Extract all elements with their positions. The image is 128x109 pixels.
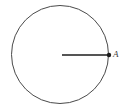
diagram-canvas	[0, 0, 128, 109]
point-a-marker	[107, 53, 111, 57]
point-a-label: A	[113, 50, 119, 59]
geometry-diagram: A	[0, 0, 128, 109]
